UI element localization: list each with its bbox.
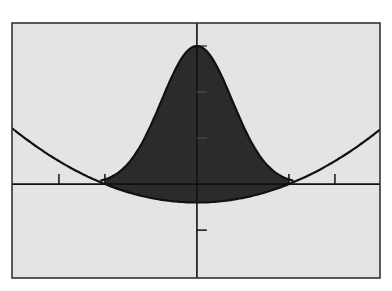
- graph-plot: [0, 0, 392, 291]
